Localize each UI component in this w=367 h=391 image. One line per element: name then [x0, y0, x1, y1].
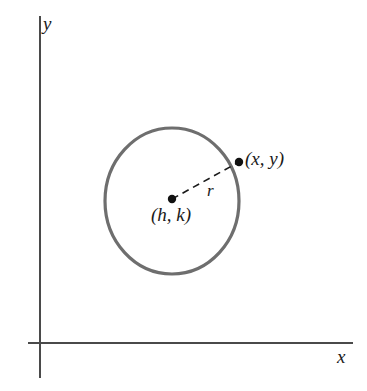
circle-point-label: (x, y): [245, 149, 284, 168]
x-axis-label: x: [337, 347, 345, 366]
circle-diagram-figure: y x (h, k) (x, y) r: [0, 0, 367, 391]
radius-dashed-line: [172, 162, 239, 199]
center-point-label: (h, k): [151, 205, 191, 224]
diagram-canvas: [0, 0, 367, 391]
radius-label: r: [207, 182, 214, 199]
circle-point-dot: [235, 158, 243, 166]
center-point-dot: [168, 195, 176, 203]
y-axis-label: y: [43, 14, 51, 33]
